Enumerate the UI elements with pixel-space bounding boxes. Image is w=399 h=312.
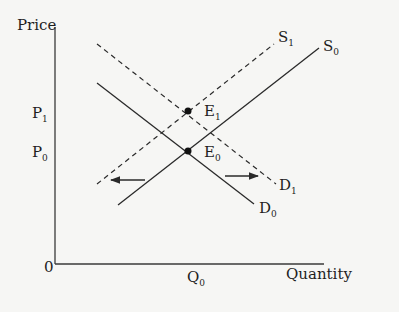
point-label-e0-sub: 0 [215,153,221,163]
quantity-label-q0-sub: 0 [199,278,205,288]
equilibrium-point-e0 [185,148,192,155]
y-axis-title: Price [17,18,56,33]
curve-label-s0-base: S [323,37,333,55]
curve-label-d1-sub: 1 [291,186,297,196]
point-label-e0-base: E [204,143,215,161]
price-label-p0-sub: 0 [42,153,48,163]
x-axis-title: Quantity [286,267,352,282]
quantity-label-q0: Q0 [187,270,205,288]
supply-demand-diagram: Price Quantity 0 P1 P0 Q0 S1 S0 D1 D0 E1… [0,0,399,312]
price-label-p1-base: P [32,104,42,122]
point-label-e1-sub: 1 [215,112,221,122]
point-label-e1-base: E [204,102,215,120]
price-label-p1-sub: 1 [42,114,48,124]
price-label-p1: P1 [32,106,48,124]
price-label-p0-base: P [32,143,42,161]
price-label-p0: P0 [32,145,48,163]
curve-label-d0-base: D [259,199,271,217]
curve-label-d0-sub: 0 [271,209,277,219]
supply-curve-s1 [97,44,274,184]
curve-label-s1: S1 [278,30,294,48]
equilibrium-point-e1 [185,108,192,115]
curve-label-d1-base: D [279,176,291,194]
curve-label-d0: D0 [259,201,277,219]
curve-label-s0-sub: 0 [333,47,339,57]
point-label-e0: E0 [204,145,221,163]
origin-label: 0 [44,260,54,275]
curve-label-s1-sub: 1 [288,38,294,48]
quantity-label-q0-base: Q [187,268,199,286]
point-label-e1: E1 [204,104,221,122]
curve-label-d1: D1 [279,178,297,196]
curve-label-s0: S0 [323,39,339,57]
curve-label-s1-base: S [278,28,288,46]
demand-curve-d0 [97,83,254,204]
